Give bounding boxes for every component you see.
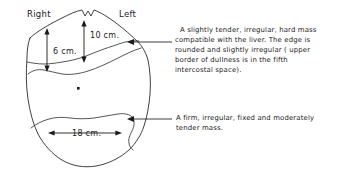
dimension-18cm: 18 cm.	[48, 129, 122, 138]
dimension-6cm-arrow-top	[44, 28, 49, 35]
dimension-10cm-label: 10 cm.	[90, 31, 119, 40]
leader-lower-arrowhead	[127, 116, 134, 122]
orientation-label-left: Left	[119, 9, 137, 19]
leader-upper-arrowhead	[127, 39, 134, 45]
dimension-10cm: 10 cm.	[81, 20, 119, 63]
dimension-10cm-arrow-top	[81, 20, 86, 27]
lower-annotation-line-2: tender mass.	[176, 124, 223, 132]
dimension-6cm-label: 6 cm.	[53, 47, 77, 56]
dimension-18cm-label: 18 cm.	[72, 129, 101, 138]
leader-upper-annotation	[127, 39, 172, 45]
upper-annotation-line-1: A slightly tender, irregular, hard mass	[180, 26, 317, 34]
dimension-6cm: 6 cm.	[44, 28, 76, 72]
upper-annotation-text: A slightly tender, irregular, hard mass …	[175, 26, 317, 74]
abdomen-diagram: 6 cm. 10 cm. 18 cm. Right Left	[0, 0, 345, 174]
umbilicus-dot	[77, 87, 80, 90]
lower-annotation-line-1: A firm, irregular, fixed and moderately	[176, 114, 314, 122]
dimension-10cm-arrow-bottom	[81, 56, 86, 63]
orientation-label-right: Right	[27, 9, 51, 19]
upper-annotation-line-3: rounded and slightly irregular ( upper	[175, 46, 310, 54]
dimension-18cm-arrow-right	[115, 130, 122, 135]
leader-lower-annotation	[127, 116, 172, 122]
figure-canvas: 6 cm. 10 cm. 18 cm. Right Left	[0, 0, 345, 174]
dimension-18cm-arrow-left	[48, 130, 55, 135]
lower-annotation-text: A firm, irregular, fixed and moderately …	[176, 114, 314, 132]
upper-annotation-line-4: border of dullness is in the fifth	[175, 56, 288, 64]
costal-margin-contour	[27, 41, 139, 64]
upper-annotation-line-2: compatible with the liver. The edge is	[175, 36, 311, 44]
upper-annotation-line-5: intercostal space).	[175, 66, 241, 74]
